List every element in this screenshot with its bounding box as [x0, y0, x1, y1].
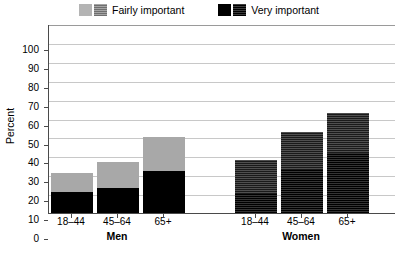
bar-women-45-64	[281, 132, 323, 213]
x-axis-tick-mark	[347, 214, 348, 218]
legend-swatch-pair-very-important	[218, 4, 246, 16]
bar-women-65plus	[327, 113, 369, 213]
bar-segment-fairly-important	[327, 113, 369, 153]
plot-area	[48, 25, 395, 214]
stacked-bar-chart: Fairly important Very important Percent …	[0, 0, 398, 253]
bar-segment-fairly-important	[51, 173, 93, 192]
bar-men-45-64	[97, 162, 139, 213]
bar-segment-fairly-important	[235, 160, 277, 194]
y-axis-tick-label: 100	[1, 45, 39, 55]
y-axis-tick-label: 50	[1, 140, 39, 150]
y-axis-tick-label: 70	[1, 102, 39, 112]
bar-segment-very-important	[281, 170, 323, 213]
legend-item-fairly-important: Fairly important	[79, 4, 184, 16]
y-axis-tick-label: 40	[1, 158, 39, 168]
chart-legend: Fairly important Very important	[0, 2, 398, 18]
y-axis: Percent 1009080706050403020100	[0, 25, 44, 214]
y-axis-tick-label: 30	[1, 177, 39, 187]
x-axis-tick-mark	[301, 214, 302, 218]
legend-label-fairly-important: Fairly important	[112, 4, 184, 16]
bar-segment-fairly-important	[281, 132, 323, 170]
x-axis-tick-mark	[255, 214, 256, 218]
bar-women-18-44	[235, 160, 277, 213]
legend-swatch-fairly-important-solid	[79, 4, 92, 16]
x-axis-tick-mark	[71, 214, 72, 218]
bar-segment-very-important	[327, 153, 369, 213]
x-axis-tick-mark	[117, 214, 118, 218]
y-axis-tick-label: 0	[1, 234, 39, 244]
legend-swatch-pair-fairly-important	[79, 4, 107, 16]
bar-segment-very-important	[235, 194, 277, 213]
bar-men-18-44	[51, 173, 93, 213]
x-axis-tick-mark	[163, 214, 164, 218]
bar-segment-very-important	[143, 171, 185, 213]
y-axis-tick-label: 80	[1, 83, 39, 93]
x-axis-group-label-men: Men	[77, 230, 157, 242]
x-axis-group-label-women: Women	[261, 230, 341, 242]
bar-segment-very-important	[97, 188, 139, 213]
bar-segment-fairly-important	[97, 162, 139, 188]
bar-segment-fairly-important	[143, 137, 185, 171]
bar-men-65plus	[143, 137, 185, 213]
y-axis-tick-label: 60	[1, 121, 39, 131]
legend-item-very-important: Very important	[218, 4, 319, 16]
legend-swatch-very-important-textured	[233, 4, 246, 16]
x-axis-category-labels: 18–4445–6465+18–4445–6465+	[48, 216, 395, 230]
bars-container	[49, 25, 395, 213]
legend-swatch-fairly-important-textured	[94, 4, 107, 16]
legend-label-very-important: Very important	[251, 4, 319, 16]
legend-swatch-very-important-solid	[218, 4, 231, 16]
bar-segment-very-important	[51, 192, 93, 213]
y-axis-tick-label: 90	[1, 64, 39, 74]
y-axis-tick-label: 20	[1, 196, 39, 206]
x-axis-group-labels: MenWomen	[48, 230, 395, 244]
y-axis-tick-label: 10	[1, 215, 39, 225]
